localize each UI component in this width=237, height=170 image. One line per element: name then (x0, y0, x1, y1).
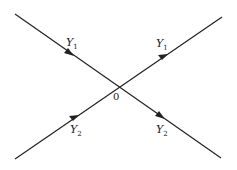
diagram-canvas (0, 0, 237, 170)
label-y2-right: Y2 (156, 124, 168, 138)
label-y1-left: Y1 (66, 37, 78, 51)
origin-label: 0 (113, 92, 119, 102)
label-y2-left: Y2 (70, 124, 82, 138)
arrow-icon (158, 54, 168, 60)
crossing-lines-diagram: Y1 Y1 Y2 Y2 0 (0, 0, 237, 170)
label-y1-right: Y1 (156, 38, 168, 52)
arrow-icon (69, 115, 79, 121)
line-descending (15, 14, 221, 158)
